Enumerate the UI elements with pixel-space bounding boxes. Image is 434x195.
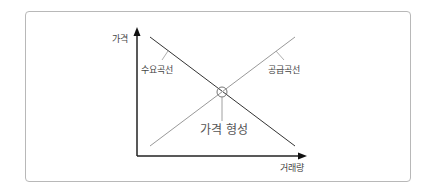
demand-label-leader <box>162 51 168 60</box>
supply-label-leader <box>276 51 284 60</box>
x-axis-label: 거래량 <box>280 164 304 173</box>
x-axis-arrow-icon <box>298 153 307 160</box>
supply-demand-diagram <box>0 0 434 195</box>
x-axis <box>137 153 307 160</box>
y-axis-label: 가격 <box>112 35 128 44</box>
equilibrium-label: 가격 형성 <box>200 124 248 136</box>
y-axis-arrow-icon <box>134 27 141 36</box>
demand-curve-label: 수요곡선 <box>141 66 173 75</box>
y-axis <box>134 27 141 156</box>
supply-curve-label: 공급곡선 <box>268 66 300 75</box>
